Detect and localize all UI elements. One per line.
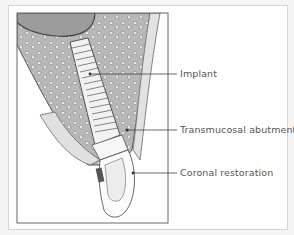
label-coronal-restoration: Coronal restoration bbox=[180, 167, 273, 178]
label-implant: Implant bbox=[180, 68, 217, 79]
label-transmucosal-abutment: Transmucosal abutment bbox=[180, 124, 294, 135]
implant-diagram bbox=[0, 0, 294, 235]
diagram-artwork bbox=[17, 13, 168, 223]
